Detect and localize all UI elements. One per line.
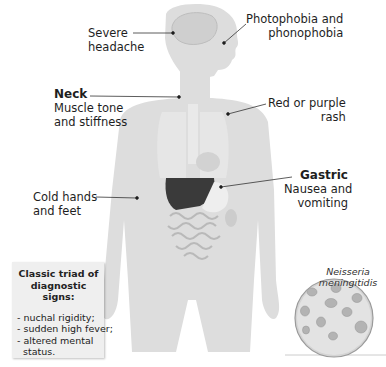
meningitis-symptoms-diagram: Severe headache Photophobia and phonopho…: [0, 0, 386, 367]
label-gastric-text: Nausea and vomiting: [284, 182, 352, 210]
triad-title: Classic triad of diagnostic signs:: [17, 268, 100, 303]
triad-item: - sudden high fever;: [17, 323, 100, 335]
triad-info-box: Classic triad of diagnostic signs: - nuc…: [12, 262, 104, 358]
triad-item: - altered mental status.: [17, 335, 100, 358]
triad-item: - nuchal rigidity;: [17, 312, 100, 324]
label-neck-title: Neck: [54, 87, 127, 101]
label-gastric: Gastric Nausea and vomiting: [284, 168, 348, 210]
label-rash: Red or purple rash: [268, 96, 346, 124]
label-neck: Neck Muscle tone and stiffness: [54, 87, 127, 129]
label-severe-headache: Severe headache: [88, 26, 144, 54]
bacteria-label: Neisseria meningitidis: [318, 266, 378, 288]
label-neck-text: Muscle tone and stiffness: [54, 101, 127, 129]
brain-icon: [172, 13, 217, 45]
label-photophobia: Photophobia and phonophobia: [246, 12, 343, 40]
label-gastric-title: Gastric: [284, 168, 348, 182]
bacteria-circle: [295, 279, 373, 357]
label-cold-hands: Cold hands and feet: [33, 190, 97, 218]
